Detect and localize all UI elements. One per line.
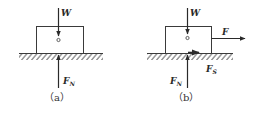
caption-b: （b）: [173, 92, 199, 103]
normal-force-label-a: FN: [62, 76, 75, 87]
caption-a: （a）: [44, 92, 70, 103]
center-of-mass-b: [186, 36, 189, 39]
friction-force-label-b: FS: [205, 64, 217, 75]
applied-force-label-b: F: [221, 27, 229, 37]
block-b: [166, 27, 212, 54]
center-of-mass-a: [57, 38, 60, 41]
normal-force-label-b: FN: [169, 76, 182, 87]
ground-hatch-b: [147, 54, 233, 60]
weight-label-b: W: [190, 8, 201, 18]
free-body-diagram-figure: W FN （a） W F FS FN （b）: [0, 0, 254, 113]
ground-hatch-a: [19, 54, 103, 60]
panel-a: W FN （a）: [19, 8, 103, 103]
weight-label-a: W: [61, 8, 72, 18]
panel-b: W F FS FN （b）: [147, 8, 245, 103]
